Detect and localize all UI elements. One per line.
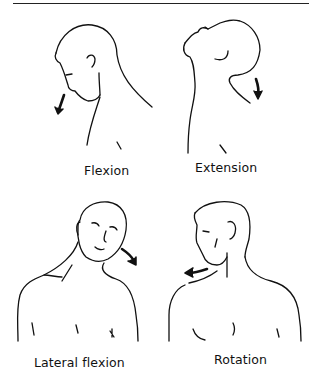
rotation-drawing [155,195,312,345]
lateral-flexion-label: Lateral flexion [34,355,125,370]
flexion-label: Flexion [84,163,129,178]
top-rule [13,3,309,4]
lateral-flexion-drawing [0,195,160,345]
extension-drawing [160,15,300,160]
extension-label: Extension [195,160,257,175]
rotation-label: Rotation [214,352,267,367]
flexion-drawing [20,15,160,160]
